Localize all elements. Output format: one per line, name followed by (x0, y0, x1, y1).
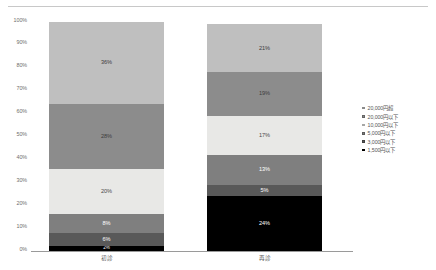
bar-segment[interactable]: 8% (49, 214, 164, 232)
legend-item[interactable]: 5,000円以下 (362, 129, 434, 137)
bar-segment[interactable]: 24% (207, 196, 322, 251)
bar-segment-label: 36% (101, 60, 112, 66)
bar-segment[interactable]: 36% (49, 22, 164, 104)
legend-item-label: 1,500円以下 (368, 146, 395, 154)
bar-segment[interactable]: 21% (207, 24, 322, 72)
y-axis-tick-label: 100% (14, 17, 27, 23)
legend-color-swatch (362, 140, 365, 143)
bar-segment[interactable]: 5% (207, 185, 322, 196)
bar-segment-label: 5% (261, 188, 269, 194)
legend-item[interactable]: 10,000円以下 (362, 121, 434, 129)
legend-color-swatch (362, 124, 365, 127)
y-axis-tick-label: 60% (17, 108, 28, 114)
x-axis-category-label: 再診 (207, 254, 322, 262)
bar-group: 2%6%8%20%28%36%24%5%13%17%19%21% (31, 22, 349, 251)
bar-segment[interactable]: 28% (49, 104, 164, 168)
bar-segment-label: 19% (259, 91, 270, 97)
legend-item[interactable]: 3,000円以下 (362, 138, 434, 146)
legend-color-swatch (362, 132, 365, 135)
bar-segment[interactable]: 13% (207, 155, 322, 185)
stacked-bar[interactable]: 2%6%8%20%28%36% (49, 22, 164, 251)
bar-segment-label: 21% (259, 46, 270, 52)
top-divider (8, 6, 428, 7)
bar-segment[interactable]: 6% (49, 233, 164, 247)
y-axis-tick-label: 20% (17, 200, 28, 206)
bar-segment[interactable]: 19% (207, 72, 322, 116)
x-axis-category-labels: 初診再診 (31, 254, 349, 268)
bar-segment-label: 24% (259, 221, 270, 227)
legend: 20,000円超20,000円以下10,000円以下5,000円以下3,000円… (362, 104, 434, 154)
x-axis-line (31, 251, 353, 252)
stacked-bar-chart: 100%90%80%70%60%50%40%30%20%10%0% 2%6%8%… (0, 0, 436, 270)
bar-segment-label: 17% (259, 133, 270, 139)
y-axis-tick-label: 70% (17, 85, 28, 91)
y-axis-tick-label: 50% (17, 131, 28, 137)
bar-segment-label: 20% (101, 189, 112, 195)
legend-color-swatch (362, 115, 365, 118)
x-axis-category-label: 初診 (49, 254, 164, 262)
y-axis-tick-label: 10% (17, 223, 28, 229)
y-axis-tick-label: 40% (17, 154, 28, 160)
y-axis-tick-label: 0% (19, 246, 27, 252)
legend-item-label: 5,000円以下 (368, 129, 395, 137)
legend-item[interactable]: 1,500円以下 (362, 146, 434, 154)
stacked-bar[interactable]: 24%5%13%17%19%21% (207, 22, 322, 251)
legend-item-label: 20,000円以下 (368, 113, 398, 121)
bar-segment[interactable]: 20% (49, 169, 164, 215)
bar-segment[interactable]: 17% (207, 116, 322, 155)
bar-segment-label: 13% (259, 167, 270, 173)
y-axis-tick-label: 80% (17, 62, 28, 68)
legend-item-label: 10,000円以下 (368, 121, 398, 129)
y-axis-tick-label: 90% (17, 39, 28, 45)
bar-segment-label: 28% (101, 134, 112, 140)
legend-color-swatch (362, 107, 365, 110)
legend-item-label: 3,000円以下 (368, 138, 395, 146)
legend-color-swatch (362, 149, 365, 152)
bar-segment-label: 8% (103, 221, 111, 227)
y-axis-tick-label: 30% (17, 177, 28, 183)
legend-item-label: 20,000円超 (368, 104, 393, 112)
bar-segment-label: 6% (103, 237, 111, 243)
legend-item[interactable]: 20,000円超 (362, 104, 434, 112)
legend-item[interactable]: 20,000円以下 (362, 112, 434, 120)
plot-area: 2%6%8%20%28%36%24%5%13%17%19%21% (31, 22, 349, 252)
y-axis: 100%90%80%70%60%50%40%30%20%10%0% (0, 16, 30, 252)
